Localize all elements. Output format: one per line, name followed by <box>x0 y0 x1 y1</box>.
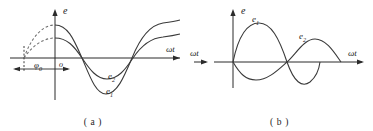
panel-b-caption: ( b ) <box>186 117 373 127</box>
panel-b-x-axis-label-right: ωt <box>348 49 357 58</box>
panel-b-x-axis-label-left: ωt <box>190 49 199 58</box>
panel-a-y-axis-label: e <box>63 6 67 16</box>
figure-panel-a: e ωt φ0 o e2 e1 ( a ) <box>0 0 186 131</box>
panel-a-curve-label-e2-sub: 2 <box>112 77 115 83</box>
panel-a-phase-label: φ0 <box>34 61 42 72</box>
panel-a-origin-label: o <box>59 61 63 69</box>
panel-a-phase-subscript: 0 <box>39 66 42 72</box>
figure-panel-b: e ωt ωt e1 e2 ( b ) <box>186 0 373 131</box>
panel-a-curve-label-e1: e1 <box>106 87 113 98</box>
panel-b-curve-e2 <box>233 39 341 80</box>
panel-b-y-axis <box>230 9 235 88</box>
panel-a-plot <box>0 0 186 105</box>
panel-a-y-axis <box>52 9 57 100</box>
panel-a-curve-e1 <box>55 20 180 94</box>
panel-a-curve-label-e1-sub: 1 <box>110 92 113 98</box>
panel-a-curve-label-e2: e2 <box>108 72 115 83</box>
figure-root: e ωt φ0 o e2 e1 ( a ) <box>0 0 373 131</box>
panel-b-curve-label-e2-sub: 2 <box>303 37 306 43</box>
panel-b-curve-label-e1-sub: 1 <box>256 20 259 26</box>
panel-b-curve-label-e2: e2 <box>299 32 306 43</box>
panel-b-y-axis-label: e <box>241 6 245 16</box>
panel-a-x-axis-label: ωt <box>166 45 175 54</box>
panel-a-curve-e1-dashed <box>24 25 55 58</box>
panel-b-curve-e1 <box>233 23 320 84</box>
panel-b-plot <box>186 0 373 105</box>
panel-b-curve-label-e1: e1 <box>252 15 259 26</box>
panel-a-caption: ( a ) <box>0 117 186 127</box>
panel-b-x-axis-left-arrow <box>194 59 208 64</box>
